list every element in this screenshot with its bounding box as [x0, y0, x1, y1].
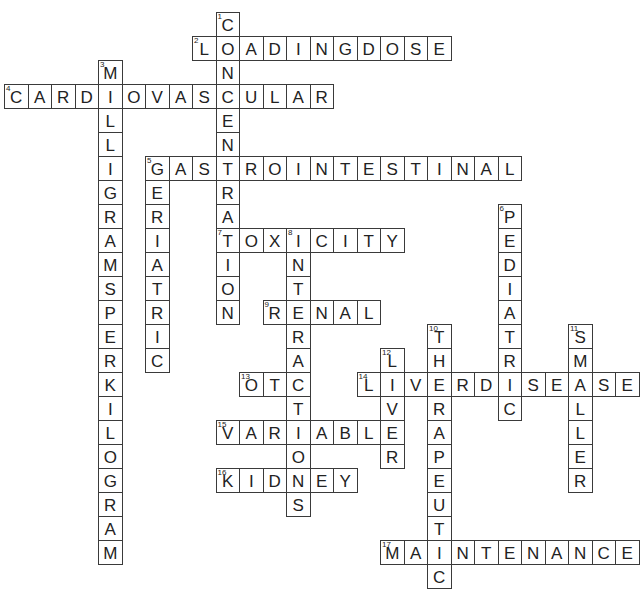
crossword-cell[interactable]: S: [521, 372, 546, 397]
crossword-cell[interactable]: L: [498, 156, 523, 181]
crossword-cell[interactable]: 1C: [216, 12, 241, 37]
crossword-cell[interactable]: I: [427, 540, 452, 565]
crossword-cell[interactable]: N: [568, 540, 593, 565]
crossword-cell[interactable]: 7T: [216, 228, 241, 253]
crossword-cell[interactable]: 15V: [216, 420, 241, 445]
crossword-cell[interactable]: D: [75, 84, 100, 109]
crossword-cell[interactable]: L: [357, 300, 382, 325]
crossword-cell[interactable]: 12L: [380, 348, 405, 373]
crossword-cell[interactable]: G: [98, 468, 123, 493]
crossword-cell[interactable]: A: [474, 156, 499, 181]
crossword-cell[interactable]: I: [286, 420, 311, 445]
crossword-cell[interactable]: L: [98, 132, 123, 157]
crossword-cell[interactable]: A: [98, 516, 123, 541]
crossword-cell[interactable]: C: [427, 564, 452, 589]
crossword-cell[interactable]: V: [145, 84, 170, 109]
crossword-cell[interactable]: R: [216, 180, 241, 205]
crossword-cell[interactable]: S: [286, 492, 311, 517]
crossword-cell[interactable]: 16K: [216, 468, 241, 493]
crossword-cell[interactable]: M: [98, 540, 123, 565]
crossword-cell[interactable]: U: [239, 84, 264, 109]
crossword-cell[interactable]: E: [145, 180, 170, 205]
crossword-cell[interactable]: A: [286, 348, 311, 373]
crossword-cell[interactable]: I: [333, 228, 358, 253]
crossword-cell[interactable]: R: [145, 204, 170, 229]
crossword-cell[interactable]: G: [98, 180, 123, 205]
crossword-cell[interactable]: I: [145, 324, 170, 349]
crossword-cell[interactable]: N: [451, 156, 476, 181]
crossword-cell[interactable]: U: [427, 492, 452, 517]
crossword-cell[interactable]: O: [286, 444, 311, 469]
crossword-cell[interactable]: O: [216, 36, 241, 61]
crossword-cell[interactable]: L: [568, 396, 593, 421]
crossword-cell[interactable]: I: [380, 372, 405, 397]
crossword-cell[interactable]: N: [310, 36, 335, 61]
crossword-cell[interactable]: I: [239, 468, 264, 493]
crossword-cell[interactable]: 9R: [263, 300, 288, 325]
crossword-cell[interactable]: A: [545, 540, 570, 565]
crossword-cell[interactable]: A: [28, 84, 53, 109]
crossword-cell[interactable]: O: [216, 276, 241, 301]
crossword-cell[interactable]: G: [333, 36, 358, 61]
crossword-cell[interactable]: E: [545, 372, 570, 397]
crossword-cell[interactable]: A: [216, 204, 241, 229]
crossword-cell[interactable]: R: [498, 348, 523, 373]
crossword-cell[interactable]: P: [98, 300, 123, 325]
crossword-cell[interactable]: I: [98, 396, 123, 421]
crossword-cell[interactable]: A: [427, 420, 452, 445]
crossword-cell[interactable]: S: [380, 156, 405, 181]
crossword-cell[interactable]: D: [357, 36, 382, 61]
crossword-cell[interactable]: 5G: [145, 156, 170, 181]
crossword-cell[interactable]: E: [427, 372, 452, 397]
crossword-cell[interactable]: 3M: [98, 60, 123, 85]
crossword-cell[interactable]: O: [380, 36, 405, 61]
crossword-cell[interactable]: O: [98, 444, 123, 469]
crossword-cell[interactable]: N: [216, 300, 241, 325]
crossword-cell[interactable]: V: [404, 372, 429, 397]
crossword-cell[interactable]: S: [192, 156, 217, 181]
crossword-cell[interactable]: N: [216, 60, 241, 85]
crossword-cell[interactable]: H: [427, 348, 452, 373]
crossword-cell[interactable]: C: [592, 540, 617, 565]
crossword-cell[interactable]: A: [239, 420, 264, 445]
crossword-cell[interactable]: E: [286, 300, 311, 325]
crossword-cell[interactable]: C: [498, 396, 523, 421]
crossword-cell[interactable]: A: [310, 420, 335, 445]
crossword-cell[interactable]: B: [333, 420, 358, 445]
crossword-cell[interactable]: 11S: [568, 324, 593, 349]
crossword-cell[interactable]: 17M: [380, 540, 405, 565]
crossword-cell[interactable]: T: [286, 396, 311, 421]
crossword-cell[interactable]: S: [404, 36, 429, 61]
crossword-cell[interactable]: E: [427, 468, 452, 493]
crossword-cell[interactable]: R: [145, 300, 170, 325]
crossword-cell[interactable]: O: [122, 84, 147, 109]
crossword-cell[interactable]: A: [98, 228, 123, 253]
crossword-cell[interactable]: T: [498, 324, 523, 349]
crossword-cell[interactable]: E: [498, 228, 523, 253]
crossword-cell[interactable]: I: [98, 84, 123, 109]
crossword-cell[interactable]: A: [404, 540, 429, 565]
crossword-cell[interactable]: C: [145, 348, 170, 373]
crossword-cell[interactable]: N: [310, 156, 335, 181]
crossword-cell[interactable]: E: [615, 372, 640, 397]
crossword-cell[interactable]: I: [98, 156, 123, 181]
crossword-cell[interactable]: A: [498, 300, 523, 325]
crossword-cell[interactable]: A: [169, 156, 194, 181]
crossword-cell[interactable]: E: [98, 324, 123, 349]
crossword-cell[interactable]: L: [263, 84, 288, 109]
crossword-cell[interactable]: T: [404, 156, 429, 181]
crossword-cell[interactable]: L: [98, 420, 123, 445]
crossword-cell[interactable]: R: [98, 492, 123, 517]
crossword-cell[interactable]: T: [333, 156, 358, 181]
crossword-cell[interactable]: T: [216, 156, 241, 181]
crossword-cell[interactable]: E: [216, 108, 241, 133]
crossword-cell[interactable]: R: [568, 468, 593, 493]
crossword-cell[interactable]: N: [521, 540, 546, 565]
crossword-cell[interactable]: 6P: [498, 204, 523, 229]
crossword-cell[interactable]: S: [592, 372, 617, 397]
crossword-cell[interactable]: E: [568, 444, 593, 469]
crossword-cell[interactable]: L: [357, 420, 382, 445]
crossword-cell[interactable]: R: [451, 372, 476, 397]
crossword-cell[interactable]: 4C: [4, 84, 29, 109]
crossword-cell[interactable]: N: [451, 540, 476, 565]
